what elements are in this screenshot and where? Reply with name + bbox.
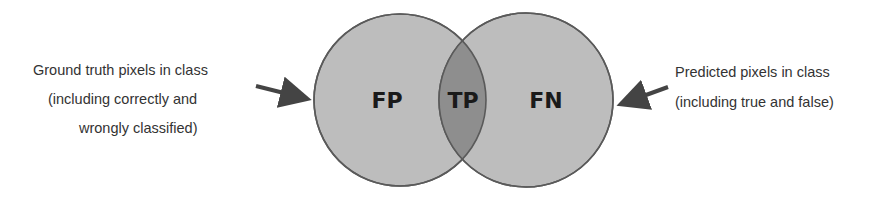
tp-label: TP (447, 88, 478, 113)
ground-truth-label-line-2: (including correctly and (48, 85, 197, 114)
fp-label: FP (371, 88, 402, 113)
ground-truth-label-line-1: Ground truth pixels in class (33, 56, 208, 85)
ground-truth-label-line-3: wrongly classified) (79, 114, 197, 143)
right-arrow (624, 87, 668, 103)
fn-label: FN (529, 88, 562, 113)
ground-truth-label: Ground truth pixels in class (including … (0, 0, 300, 200)
